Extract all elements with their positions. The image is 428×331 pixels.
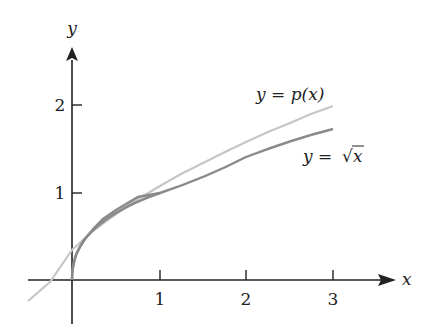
x-tick-label-2: 2 bbox=[241, 289, 252, 309]
y-tick-label-2: 2 bbox=[55, 95, 66, 115]
curve-sqrt-label-lhs: y = bbox=[302, 146, 332, 166]
chart: 1 2 3 1 2 x y y = p(x) y = √ x bbox=[0, 0, 428, 331]
curve-sqrt-label-x: x bbox=[353, 146, 363, 166]
y-axis-label: y bbox=[66, 18, 77, 38]
curve-p bbox=[28, 106, 333, 301]
sqrt-radical-icon: √ bbox=[342, 146, 353, 166]
curve-p-label: y = p(x) bbox=[255, 84, 324, 104]
y-axis-arrow-icon bbox=[66, 47, 78, 61]
x-axis-label: x bbox=[402, 269, 412, 289]
x-tick-label-1: 1 bbox=[155, 289, 166, 309]
x-tick-label-3: 3 bbox=[328, 289, 339, 309]
curve-sqrt-label: y = √ x bbox=[302, 146, 364, 166]
y-tick-label-1: 1 bbox=[55, 183, 66, 203]
curve-sqrt bbox=[72, 193, 160, 280]
curve-sqrt-main bbox=[72, 129, 333, 280]
